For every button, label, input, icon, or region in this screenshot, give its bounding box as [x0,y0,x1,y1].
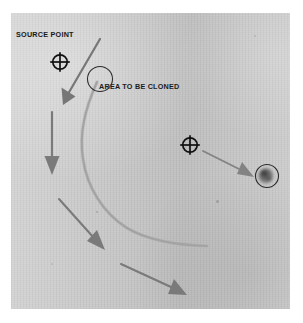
blemish-circle [256,165,279,188]
arrow-source-to-area [62,39,101,105]
label-source-point: SOURCE POINT [16,31,74,38]
diagram-canvas: SOURCE POINT AREA TO BE CLONED [0,0,303,323]
blemish-curve [82,82,207,246]
diagram-artwork [11,13,290,309]
arrow-vertical-down [45,112,60,175]
photo-plate [11,13,290,309]
arrow-crosshair-to-blemish [203,151,254,177]
arrow-bottom-diagonal [121,264,187,295]
label-area-to-be-cloned: AREA TO BE CLONED [99,83,180,90]
arrow-lower-diagonal [59,199,105,250]
crosshair-target-icon [180,135,200,155]
crosshair-target-icon [50,52,70,72]
